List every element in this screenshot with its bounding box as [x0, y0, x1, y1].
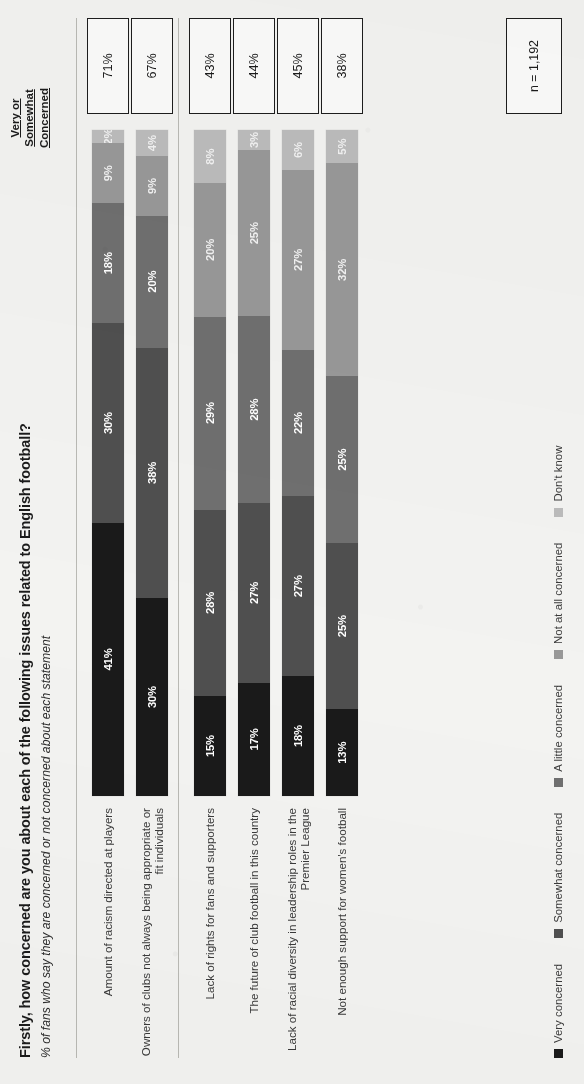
category-label: Owners of clubs not always being appropr…	[139, 796, 166, 1058]
stacked-bar[interactable]: 13%25%25%32%5%	[326, 130, 358, 796]
stacked-bar[interactable]: 41%30%18%9%2%	[92, 130, 124, 796]
legend-label: Not at all concerned	[552, 543, 564, 644]
bar-segment[interactable]: 18%	[92, 203, 124, 323]
bar-segment[interactable]: 4%	[136, 130, 168, 156]
bar-segment[interactable]: 25%	[238, 150, 270, 317]
legend-item[interactable]: Don't know	[552, 446, 564, 517]
row-total-value: 67%	[145, 53, 159, 78]
totals-column-header-line1: Very or	[8, 70, 22, 166]
bar-rows: Amount of racism directed at players41%3…	[76, 18, 520, 1058]
bar-segment[interactable]: 41%	[92, 523, 124, 796]
row-total-value: 38%	[335, 53, 349, 78]
legend-swatch-icon	[554, 778, 563, 787]
category-label: Not enough support for women's football	[335, 796, 348, 1058]
chart-canvas: Firstly, how concerned are you about eac…	[0, 0, 584, 1084]
bar-segment[interactable]: 8%	[194, 130, 226, 183]
bar-segment[interactable]: 20%	[136, 216, 168, 348]
row-total-value: 71%	[101, 53, 115, 78]
bar-segment[interactable]: 29%	[194, 317, 226, 510]
chart-subtitle: % of fans who say they are concerned or …	[39, 298, 54, 1058]
chart-legend: Very concernedSomewhat concernedA little…	[552, 446, 564, 1058]
bar-row: The future of club football in this coun…	[232, 18, 276, 1058]
sample-size-label: n = 1,192	[527, 40, 541, 92]
bar-segment[interactable]: 25%	[326, 543, 358, 710]
bar-segment[interactable]: 5%	[326, 130, 358, 163]
bar-segment[interactable]: 38%	[136, 348, 168, 599]
bar-row: Lack of rights for fans and supporters15…	[188, 18, 232, 1058]
bar-segment[interactable]: 13%	[326, 709, 358, 796]
bar-segment[interactable]: 17%	[238, 683, 270, 796]
bar-segment[interactable]: 27%	[282, 496, 314, 676]
legend-label: Very concerned	[552, 964, 564, 1043]
totals-column-header-line2: Somewhat	[22, 70, 36, 166]
chart-title: Firstly, how concerned are you about eac…	[16, 298, 34, 1058]
row-total-value: 44%	[247, 53, 261, 78]
legend-label: Somewhat concerned	[552, 813, 564, 923]
legend-item[interactable]: Very concerned	[552, 964, 564, 1058]
category-label: The future of club football in this coun…	[247, 796, 260, 1058]
row-total-box: 45%	[277, 18, 319, 114]
row-total-box: 38%	[321, 18, 363, 114]
category-label: Lack of rights for fans and supporters	[203, 796, 216, 1058]
bar-segment[interactable]: 15%	[194, 696, 226, 796]
category-label: Amount of racism directed at players	[101, 796, 114, 1058]
bar-row: Owners of clubs not always being appropr…	[130, 18, 174, 1058]
row-total-value: 45%	[291, 53, 305, 78]
stacked-bar[interactable]: 17%27%28%25%3%	[238, 130, 270, 796]
bar-segment[interactable]: 25%	[326, 376, 358, 543]
row-total-box: 44%	[233, 18, 275, 114]
bar-segment[interactable]: 18%	[282, 676, 314, 796]
category-label: Lack of racial diversity in leadership r…	[285, 796, 312, 1058]
row-total-box: 67%	[131, 18, 173, 114]
legend-swatch-icon	[554, 1049, 563, 1058]
stacked-bar[interactable]: 15%28%29%20%8%	[194, 130, 226, 796]
legend-swatch-icon	[554, 650, 563, 659]
bar-segment[interactable]: 32%	[326, 163, 358, 376]
bar-segment[interactable]: 6%	[282, 130, 314, 170]
bar-segment[interactable]: 2%	[92, 130, 124, 143]
row-total-value: 43%	[203, 53, 217, 78]
row-total-box: 43%	[189, 18, 231, 114]
plot-area: Amount of racism directed at players41%3…	[76, 18, 520, 1058]
sample-size-box: n = 1,192	[506, 18, 562, 114]
legend-label: A little concerned	[552, 685, 564, 772]
bar-row: Amount of racism directed at players41%3…	[86, 18, 130, 1058]
bar-row: Not enough support for women's football1…	[320, 18, 364, 1058]
bar-segment[interactable]: 30%	[136, 598, 168, 796]
bar-segment[interactable]: 3%	[238, 130, 270, 150]
totals-column-header-line3: Concerned	[37, 70, 51, 166]
legend-item[interactable]: A little concerned	[552, 685, 564, 787]
bar-segment[interactable]: 22%	[282, 350, 314, 497]
legend-label: Don't know	[552, 446, 564, 502]
bar-segment[interactable]: 27%	[282, 170, 314, 350]
bar-segment[interactable]: 27%	[238, 503, 270, 683]
legend-swatch-icon	[554, 508, 563, 517]
bar-segment[interactable]: 28%	[238, 317, 270, 503]
bar-segment[interactable]: 28%	[194, 510, 226, 696]
legend-item[interactable]: Somewhat concerned	[552, 813, 564, 938]
legend-item[interactable]: Not at all concerned	[552, 543, 564, 659]
bar-segment[interactable]: 9%	[92, 143, 124, 203]
bar-row: Lack of racial diversity in leadership r…	[276, 18, 320, 1058]
totals-column-header: Very or Somewhat Concerned	[8, 70, 51, 166]
bar-segment[interactable]: 30%	[92, 323, 124, 523]
bar-segment[interactable]: 20%	[194, 183, 226, 316]
chart-header: Firstly, how concerned are you about eac…	[16, 298, 54, 1058]
row-total-box: 71%	[87, 18, 129, 114]
legend-swatch-icon	[554, 929, 563, 938]
stacked-bar[interactable]: 30%38%20%9%4%	[136, 130, 168, 796]
bar-segment[interactable]: 9%	[136, 156, 168, 215]
stacked-bar[interactable]: 18%27%22%27%6%	[282, 130, 314, 796]
